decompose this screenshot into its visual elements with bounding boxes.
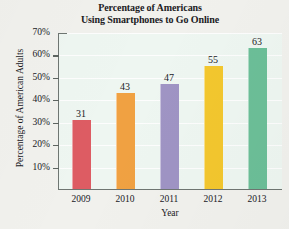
ytick-label-40: 40% bbox=[10, 94, 50, 104]
chart-title-line-1: Percentage of Americans bbox=[50, 2, 250, 14]
ytick-mark-10 bbox=[53, 168, 59, 169]
ytick-label-50: 50% bbox=[10, 72, 50, 82]
chart-title: Percentage of Americans Using Smartphone… bbox=[50, 2, 250, 25]
xtick-label-2013: 2013 bbox=[234, 194, 280, 205]
bar-2011[interactable] bbox=[160, 84, 179, 189]
ytick-label-20: 20% bbox=[10, 139, 50, 149]
gridline-70 bbox=[59, 33, 282, 34]
ytick-mark-40 bbox=[53, 100, 59, 101]
xtick-label-2010: 2010 bbox=[102, 194, 148, 205]
xtick-label-2012: 2012 bbox=[190, 194, 236, 205]
bar-value-2011: 47 bbox=[152, 72, 186, 83]
ytick-label-10: 10% bbox=[10, 162, 50, 172]
xtick-label-2009: 2009 bbox=[58, 194, 104, 205]
ytick-label-60: 60% bbox=[10, 49, 50, 59]
bar-chart-figure: Percentage of Americans Using Smartphone… bbox=[0, 0, 289, 229]
x-axis-title: Year bbox=[58, 208, 282, 218]
ytick-mark-50 bbox=[53, 78, 59, 79]
ytick-label-30: 30% bbox=[10, 117, 50, 127]
bar-value-2009: 31 bbox=[64, 108, 98, 119]
bar-value-2013: 63 bbox=[240, 36, 274, 47]
ytick-mark-60 bbox=[53, 55, 59, 56]
y-axis-top-tick bbox=[58, 33, 67, 34]
bar-2010[interactable] bbox=[116, 93, 135, 189]
bar-2009[interactable] bbox=[72, 120, 91, 190]
ytick-mark-20 bbox=[53, 145, 59, 146]
ytick-mark-30 bbox=[53, 123, 59, 124]
xtick-label-2011: 2011 bbox=[146, 194, 192, 205]
chart-title-line-2: Using Smartphones to Go Online bbox=[50, 14, 250, 26]
bar-2013[interactable] bbox=[248, 48, 267, 189]
ytick-label-70: 70% bbox=[10, 27, 50, 37]
bar-value-2012: 55 bbox=[196, 54, 230, 65]
bar-2012[interactable] bbox=[204, 66, 223, 189]
bar-value-2010: 43 bbox=[108, 81, 142, 92]
